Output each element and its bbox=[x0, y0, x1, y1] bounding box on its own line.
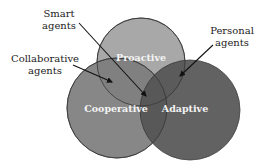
cooperative-label: Cooperative bbox=[84, 103, 148, 114]
collaborative-agents-label-line2: agents bbox=[28, 65, 62, 76]
proactive-label: Proactive bbox=[116, 52, 166, 63]
personal-agents-label-line1: Personal bbox=[210, 25, 254, 36]
venn-diagram: Proactive Cooperative Adaptive Smart age… bbox=[0, 0, 261, 162]
collaborative-agents-label-line1: Collaborative bbox=[11, 53, 79, 64]
smart-agents-label-line2: agents bbox=[42, 20, 76, 31]
smart-agents-label-line1: Smart bbox=[43, 8, 74, 19]
personal-agents-label-line2: agents bbox=[215, 37, 249, 48]
adaptive-label: Adaptive bbox=[161, 103, 208, 114]
